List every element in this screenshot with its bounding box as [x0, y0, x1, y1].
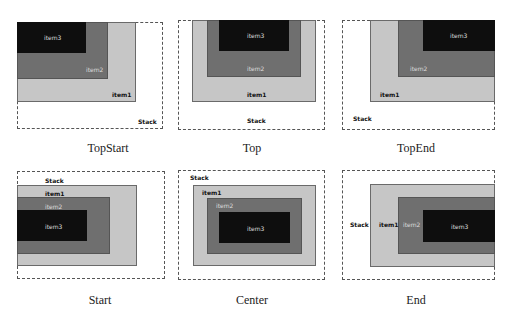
- item1-label: item1: [45, 190, 64, 197]
- item2-label: item2: [403, 221, 420, 228]
- item3-label: item3: [451, 223, 468, 230]
- item2-label: item2: [247, 65, 264, 72]
- item1-label: item1: [247, 91, 266, 98]
- caption-end: End: [356, 293, 476, 308]
- caption-topend: TopEnd: [356, 141, 476, 156]
- caption-top: Top: [192, 141, 312, 156]
- stack-label: Stack: [247, 117, 266, 124]
- item2-label: item2: [86, 66, 103, 73]
- item3-label: item3: [247, 225, 264, 232]
- item1-label: item1: [380, 91, 399, 98]
- item3-label: item3: [44, 34, 61, 41]
- stack-label: Stack: [45, 177, 64, 184]
- stack-label: Stack: [138, 118, 157, 125]
- item2-label: item2: [410, 65, 427, 72]
- item1-label: item1: [112, 91, 131, 98]
- item3-label: item3: [45, 223, 62, 230]
- stack-label: Stack: [350, 221, 369, 228]
- item1-label: item1: [202, 189, 221, 196]
- caption-topstart: TopStart: [48, 141, 168, 156]
- item3-label: item3: [247, 32, 264, 39]
- stack-label: Stack: [190, 174, 209, 181]
- item2-label: item2: [216, 202, 233, 209]
- caption-center: Center: [192, 293, 312, 308]
- stack-label: Stack: [353, 115, 372, 122]
- item2-label: item2: [45, 203, 62, 210]
- caption-start: Start: [40, 293, 160, 308]
- item1-label: item1: [379, 221, 398, 228]
- item3-label: item3: [450, 32, 467, 39]
